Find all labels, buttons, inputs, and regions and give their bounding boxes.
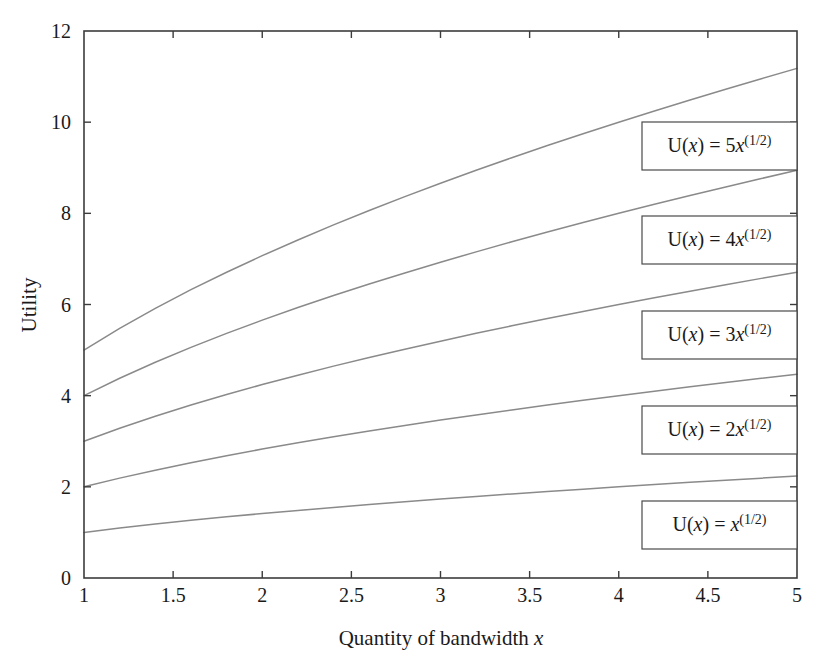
x-tick-label: 3.5	[517, 584, 542, 606]
y-tick-label: 10	[51, 111, 71, 133]
plot-frame	[84, 31, 797, 578]
legend-group: U(x) = 5x(1/2)U(x) = 4x(1/2)U(x) = 3x(1/…	[642, 122, 797, 549]
x-tick-label: 1	[79, 584, 89, 606]
x-tick-label: 2	[257, 584, 267, 606]
x-tick-label: 2.5	[339, 584, 364, 606]
y-axis-title: Utility	[17, 277, 41, 332]
x-tick-label: 3	[436, 584, 446, 606]
y-tick-label: 6	[61, 294, 71, 316]
x-tick-label: 1.5	[161, 584, 186, 606]
x-tick-labels: 11.522.533.544.55	[79, 584, 802, 606]
utility-curves-figure: 11.522.533.544.55 024681012 U(x) = 5x(1/…	[0, 0, 836, 662]
y-tick-label: 12	[51, 20, 71, 42]
y-tick-label: 0	[61, 567, 71, 589]
axis-frame-group	[84, 31, 797, 578]
x-tick-label: 5	[792, 584, 802, 606]
y-tick-labels: 024681012	[51, 20, 71, 589]
x-tick-label: 4.5	[695, 584, 720, 606]
chart-canvas: 11.522.533.544.55 024681012 U(x) = 5x(1/…	[0, 0, 836, 662]
x-tick-label: 4	[614, 584, 624, 606]
x-axis-title: Quantity of bandwidth x	[339, 626, 544, 650]
y-tick-label: 4	[61, 385, 71, 407]
y-tick-label: 8	[61, 202, 71, 224]
curve-series-0	[84, 68, 797, 350]
y-tick-label: 2	[61, 476, 71, 498]
curve-series-1	[84, 170, 797, 395]
